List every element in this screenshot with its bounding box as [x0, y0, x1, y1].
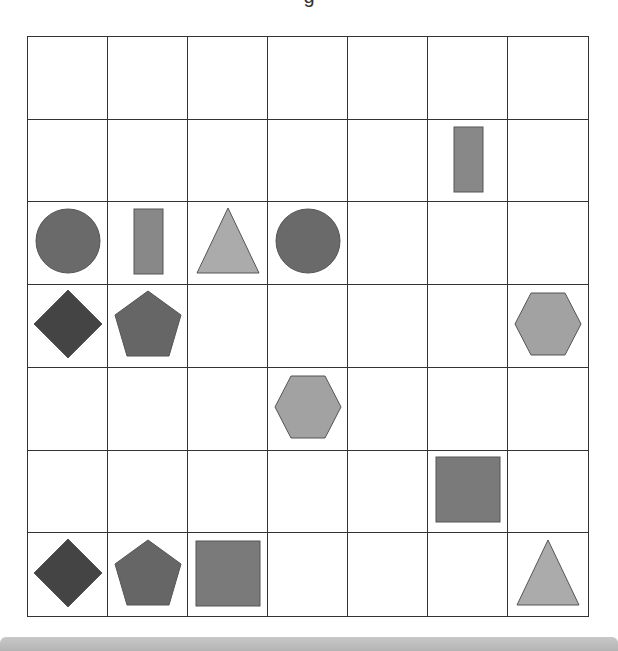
- grid-cell-r3-c6: [508, 285, 588, 368]
- grid-cell-r4-c2: [188, 368, 268, 451]
- diamond-icon: [33, 289, 103, 363]
- diamond-icon: [33, 538, 103, 612]
- grid-cell-r2-c3: [268, 202, 348, 285]
- grid-cell-r1-c6: [508, 120, 588, 203]
- grid-cell-r0-c0: [28, 37, 108, 120]
- hexagon-icon: [513, 289, 583, 363]
- grid-cell-r5-c3: [268, 451, 348, 534]
- grid-cell-r5-c2: [188, 451, 268, 534]
- grid-cell-r1-c0: [28, 120, 108, 203]
- grid-cell-r6-c4: [348, 533, 428, 616]
- grid-cell-r6-c2: [188, 533, 268, 616]
- grid-cell-r5-c4: [348, 451, 428, 534]
- grid-cell-r0-c2: [188, 37, 268, 120]
- grid-cell-r6-c0: [28, 533, 108, 616]
- grid-cell-r2-c4: [348, 202, 428, 285]
- grid-cell-r3-c4: [348, 285, 428, 368]
- bottom-band: [0, 637, 618, 651]
- grid-cell-r3-c5: [428, 285, 508, 368]
- square-icon: [193, 538, 263, 612]
- grid-cell-r3-c0: [28, 285, 108, 368]
- grid-cell-r1-c1: [108, 120, 188, 203]
- grid-cell-r6-c3: [268, 533, 348, 616]
- rectangle-icon: [113, 206, 183, 280]
- grid-cell-r5-c0: [28, 451, 108, 534]
- grid-cell-r0-c1: [108, 37, 188, 120]
- grid-cell-r6-c5: [428, 533, 508, 616]
- triangle-icon: [513, 538, 583, 612]
- grid-cell-r5-c5: [428, 451, 508, 534]
- grid-cell-r1-c5: [428, 120, 508, 203]
- grid-cell-r1-c4: [348, 120, 428, 203]
- grid-cell-r0-c5: [428, 37, 508, 120]
- grid-cell-r2-c2: [188, 202, 268, 285]
- grid-cell-r1-c2: [188, 120, 268, 203]
- triangle-icon: [193, 206, 263, 280]
- circle-icon: [33, 206, 103, 280]
- grid-cell-r5-c1: [108, 451, 188, 534]
- grid-cell-r1-c3: [268, 120, 348, 203]
- grid-cell-r4-c4: [348, 368, 428, 451]
- title-fragment: g: [0, 0, 618, 6]
- grid-cell-r4-c5: [428, 368, 508, 451]
- grid-cell-r6-c6: [508, 533, 588, 616]
- grid-cell-r4-c6: [508, 368, 588, 451]
- grid-cell-r4-c1: [108, 368, 188, 451]
- grid-cell-r0-c3: [268, 37, 348, 120]
- grid-cell-r3-c2: [188, 285, 268, 368]
- rectangle-icon: [433, 124, 503, 198]
- square-icon: [433, 454, 503, 528]
- grid-cell-r0-c6: [508, 37, 588, 120]
- grid-cell-r6-c1: [108, 533, 188, 616]
- grid-cell-r2-c6: [508, 202, 588, 285]
- grid-cell-r3-c1: [108, 285, 188, 368]
- grid-cell-r3-c3: [268, 285, 348, 368]
- grid-cell-r2-c1: [108, 202, 188, 285]
- grid-cell-r5-c6: [508, 451, 588, 534]
- grid-cell-r2-c5: [428, 202, 508, 285]
- circle-icon: [273, 206, 343, 280]
- shape-grid: [27, 36, 589, 617]
- pentagon-icon: [113, 289, 183, 363]
- hexagon-icon: [273, 372, 343, 446]
- grid-cell-r0-c4: [348, 37, 428, 120]
- grid-cell-r2-c0: [28, 202, 108, 285]
- grid-cell-r4-c3: [268, 368, 348, 451]
- pentagon-icon: [113, 538, 183, 612]
- grid-cell-r4-c0: [28, 368, 108, 451]
